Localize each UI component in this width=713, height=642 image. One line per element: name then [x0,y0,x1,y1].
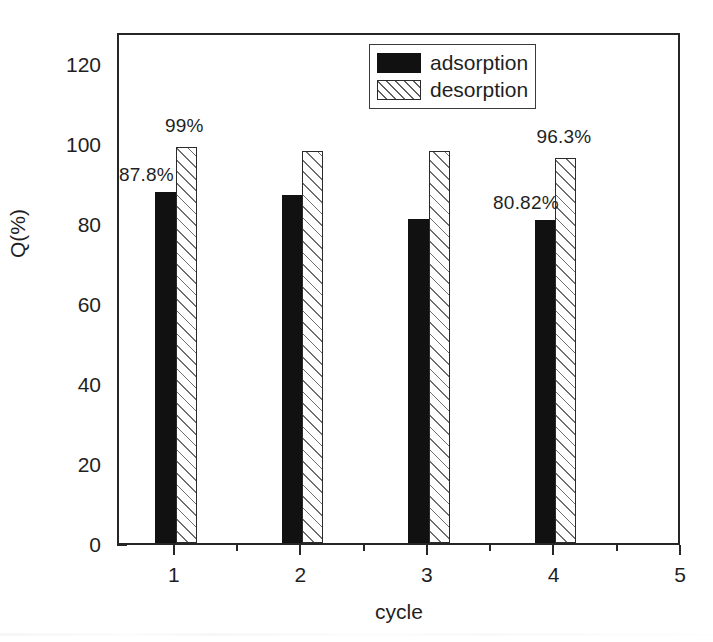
bar-adsorption-cycle-3 [408,219,429,543]
x-tick-label: 3 [421,563,433,587]
y-tick-label: 40 [78,373,101,397]
x-tick-minor [489,545,491,551]
legend-item-desorption: desorption [377,76,528,103]
bar-desorption-cycle-1 [176,147,197,543]
x-tick-minor [236,545,238,551]
bar-adsorption-cycle-2 [282,195,303,543]
data-label-adsorption-cycle-4: 80.82% [493,192,559,214]
bar-adsorption-cycle-4 [535,220,556,543]
y-tick-label: 60 [78,293,101,317]
x-tick-major [679,545,681,555]
y-tick-label: 0 [89,533,101,557]
bar-adsorption-cycle-1 [155,192,176,543]
legend-swatch-adsorption [377,53,421,73]
data-label-desorption-cycle-1: 99% [165,115,204,137]
bar-desorption-cycle-3 [429,151,450,543]
x-tick-label: 5 [674,563,686,587]
plot-area [119,35,678,543]
scan-artifact [0,633,713,636]
x-tick-major [426,545,428,555]
x-tick-major [299,545,301,555]
x-tick-major [552,545,554,555]
bar-desorption-cycle-2 [302,151,323,543]
x-tick-label: 4 [548,563,560,587]
x-tick-label: 1 [168,563,180,587]
x-tick-major [173,545,175,555]
legend-label-desorption: desorption [430,79,528,100]
bar-desorption-cycle-4 [555,158,576,543]
y-tick-label: 120 [66,53,101,77]
y-axis-title: Q(%) [6,209,30,258]
y-tick-label: 20 [78,453,101,477]
bar-chart-figure: 020406080100120 12345 87.8%99%80.82%96.3… [0,0,713,642]
legend-label-adsorption: adsorption [430,52,528,73]
x-tick-label: 2 [295,563,307,587]
data-label-desorption-cycle-4: 96.3% [536,126,591,148]
plot-frame [117,33,680,545]
legend-item-adsorption: adsorption [377,49,528,76]
x-axis-title: cycle [375,600,423,624]
x-tick-minor [363,545,365,551]
chart-legend: adsorption desorption [369,44,536,109]
data-label-adsorption-cycle-1: 87.8% [119,164,174,186]
x-tick-minor [616,545,618,551]
legend-swatch-desorption [377,80,421,100]
y-tick-label: 80 [78,213,101,237]
y-tick-label: 100 [66,133,101,157]
